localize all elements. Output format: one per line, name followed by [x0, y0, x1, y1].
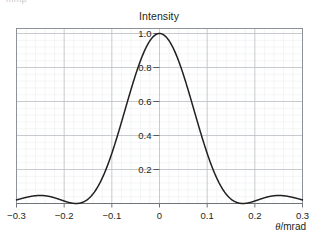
x-axis-title: θ/mrad [275, 221, 306, 232]
major-gridlines [17, 29, 303, 204]
x-tick-label: −0.2 [55, 210, 74, 221]
y-tick-label: 1.0 [138, 28, 151, 39]
x-tick-label: −0.1 [102, 210, 121, 221]
y-tick-label: 0.2 [138, 164, 151, 175]
x-tick-label: 0.2 [248, 210, 261, 221]
y-tick-label: 0.4 [138, 130, 151, 141]
plot-area: 0.20.40.60.81.0 −0.3−0.2−0.100.10.20.3 [0, 0, 318, 239]
x-axis-units: /mrad [280, 221, 306, 232]
y-tick-label: 0.8 [138, 62, 151, 73]
x-tick-label: 0.3 [296, 210, 309, 221]
x-tick-label: 0 [157, 210, 162, 221]
x-tick-label: −0.3 [7, 210, 26, 221]
x-tick-label: 0.1 [201, 210, 214, 221]
x-axis-tick-labels: −0.3−0.2−0.100.10.20.3 [7, 210, 309, 221]
intensity-diffraction-figure: mmp Intensity 0.20.40.60.81.0 −0.3−0.2−0… [0, 0, 318, 239]
y-tick-label: 0.6 [138, 96, 151, 107]
